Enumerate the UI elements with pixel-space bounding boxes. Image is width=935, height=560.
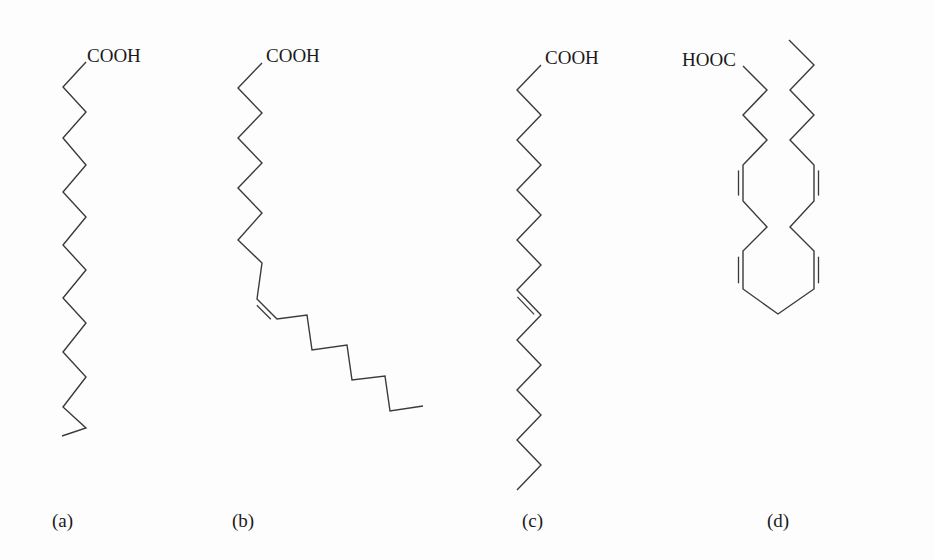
structure-c-skeleton xyxy=(517,65,541,490)
fatty-acid-structures-diagram xyxy=(0,0,935,560)
structure-a-carboxyl-group: COOH xyxy=(87,46,141,65)
structure-b-skeleton xyxy=(238,63,423,411)
structure-d-carboxyl-group: HOOC xyxy=(682,50,736,69)
structure-d-label: (d) xyxy=(767,511,789,530)
carbon-chain xyxy=(743,40,814,314)
structure-a-label: (a) xyxy=(52,511,73,530)
structure-c-label: (c) xyxy=(522,511,543,530)
carbon-chain xyxy=(62,62,86,436)
structure-c-carboxyl-group: COOH xyxy=(545,48,599,67)
structure-d-skeleton xyxy=(739,40,819,314)
double-bond-line xyxy=(257,305,271,319)
carbon-chain xyxy=(238,63,423,411)
structure-a-skeleton xyxy=(62,62,86,436)
carbon-chain xyxy=(517,65,541,490)
structure-b-label: (b) xyxy=(232,511,254,530)
structure-b-carboxyl-group: COOH xyxy=(266,46,320,65)
